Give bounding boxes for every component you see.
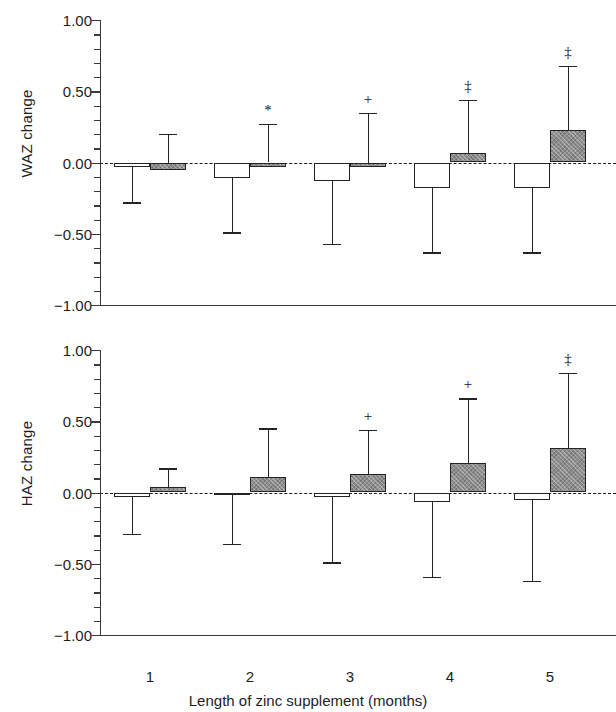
waz-y-major-tick — [91, 163, 100, 164]
waz-errorbar-cap-zinc-month-4 — [459, 100, 477, 101]
haz-y-minor-tick — [94, 621, 100, 622]
waz-y-minor-tick — [94, 262, 100, 263]
waz-significance-marker-month-3: + — [364, 92, 372, 107]
waz-significance-marker-month-5: ‡ — [564, 45, 572, 60]
haz-y-minor-tick — [94, 393, 100, 394]
waz-errorbar-control-month-1 — [132, 167, 133, 203]
haz-bar-control-month-4 — [414, 493, 450, 503]
waz-bar-zinc-month-3 — [350, 163, 386, 167]
x-axis-tick-labels: 12345 — [100, 668, 600, 690]
waz-y-minor-tick — [94, 77, 100, 78]
waz-y-tick-label: 1.00 — [63, 13, 92, 28]
haz-errorbar-control-month-4 — [432, 502, 433, 576]
haz-errorbar-cap-zinc-month-1 — [159, 468, 177, 469]
waz-errorbar-cap-control-month-5 — [523, 252, 541, 253]
haz-significance-marker-month-5: ‡ — [564, 352, 572, 367]
haz-errorbar-zinc-month-1 — [168, 468, 169, 487]
waz-y-tick-labels: 1.000.500.00−0.50−1.00 — [0, 0, 100, 300]
x-tick-label-1: 1 — [146, 668, 154, 685]
waz-y-minor-tick — [94, 148, 100, 149]
haz-bar-zinc-month-5 — [550, 448, 586, 492]
haz-significance-marker-month-3: + — [364, 409, 372, 424]
haz-y-minor-tick — [94, 464, 100, 465]
waz-bar-zinc-month-5 — [550, 130, 586, 163]
waz-x-axis-line — [100, 305, 616, 306]
figure-zinc-supplement-growth: WAZ change 1.000.500.00−0.50−1.00 *+‡‡ H… — [0, 0, 616, 712]
haz-bar-zinc-month-2 — [250, 477, 286, 493]
waz-y-major-tick — [91, 20, 100, 21]
haz-y-minor-tick — [94, 407, 100, 408]
haz-errorbar-cap-control-month-5 — [523, 581, 541, 582]
waz-bar-control-month-5 — [514, 163, 550, 189]
waz-y-major-tick — [91, 305, 100, 306]
waz-bar-control-month-2 — [214, 163, 250, 179]
haz-errorbar-zinc-month-5 — [568, 373, 569, 449]
waz-y-minor-tick — [94, 248, 100, 249]
haz-errorbar-control-month-5 — [532, 500, 533, 581]
waz-significance-marker-month-4: ‡ — [464, 79, 472, 94]
haz-bar-zinc-month-3 — [350, 474, 386, 493]
waz-y-minor-tick — [94, 120, 100, 121]
haz-y-minor-tick — [94, 607, 100, 608]
waz-errorbar-zinc-month-5 — [568, 66, 569, 130]
haz-y-major-tick — [91, 421, 100, 422]
haz-y-minor-tick — [94, 478, 100, 479]
waz-errorbar-zinc-month-4 — [468, 100, 469, 153]
waz-bar-zinc-month-2 — [250, 163, 286, 167]
waz-y-minor-tick — [94, 63, 100, 64]
haz-y-major-tick — [91, 564, 100, 565]
waz-y-tick-label: −0.50 — [54, 226, 92, 241]
panel-waz-change: WAZ change 1.000.500.00−0.50−1.00 *+‡‡ — [0, 0, 616, 330]
waz-errorbar-cap-zinc-month-1 — [159, 134, 177, 135]
waz-errorbar-cap-zinc-month-3 — [359, 113, 377, 114]
haz-errorbar-zinc-month-3 — [368, 430, 369, 474]
waz-y-minor-tick — [94, 205, 100, 206]
haz-errorbar-cap-zinc-month-4 — [459, 398, 477, 399]
waz-errorbar-cap-zinc-month-5 — [559, 66, 577, 67]
haz-y-tick-label: 1.00 — [63, 343, 92, 358]
haz-y-minor-tick — [94, 535, 100, 536]
haz-significance-marker-month-4: + — [464, 377, 472, 392]
waz-bar-zinc-month-4 — [450, 153, 486, 163]
haz-y-major-tick — [91, 493, 100, 494]
haz-y-minor-tick — [94, 436, 100, 437]
waz-errorbar-control-month-4 — [432, 188, 433, 252]
waz-errorbar-cap-control-month-2 — [223, 232, 241, 233]
waz-errorbar-cap-zinc-month-2 — [259, 124, 277, 125]
haz-y-tick-labels: 1.000.500.00−0.50−1.00 — [0, 330, 100, 630]
waz-errorbar-control-month-2 — [232, 178, 233, 232]
panel-haz-change: HAZ change 1.000.500.00−0.50−1.00 ++‡ — [0, 330, 616, 660]
waz-errorbar-cap-control-month-4 — [423, 252, 441, 253]
waz-y-major-tick — [91, 234, 100, 235]
haz-y-major-tick — [91, 635, 100, 636]
haz-errorbar-control-month-1 — [132, 497, 133, 534]
waz-y-minor-tick — [94, 191, 100, 192]
haz-errorbar-cap-control-month-2 — [223, 544, 241, 545]
waz-y-tick-label: 0.00 — [63, 155, 92, 170]
x-tick-label-4: 4 — [446, 668, 454, 685]
haz-errorbar-cap-zinc-month-5 — [559, 373, 577, 374]
waz-y-minor-tick — [94, 134, 100, 135]
haz-y-minor-tick — [94, 450, 100, 451]
haz-y-minor-tick — [94, 550, 100, 551]
waz-errorbar-zinc-month-2 — [268, 124, 269, 162]
haz-y-tick-label: 0.00 — [63, 485, 92, 500]
haz-errorbar-zinc-month-4 — [468, 398, 469, 462]
haz-errorbar-zinc-month-2 — [268, 428, 269, 476]
haz-bar-zinc-month-4 — [450, 463, 486, 493]
haz-errorbar-cap-control-month-3 — [323, 562, 341, 563]
haz-errorbar-control-month-3 — [332, 497, 333, 563]
waz-bar-control-month-4 — [414, 163, 450, 189]
waz-y-tick-label: −1.00 — [54, 298, 92, 313]
haz-y-minor-tick — [94, 521, 100, 522]
haz-y-minor-tick — [94, 578, 100, 579]
haz-y-tick-label: −1.00 — [54, 628, 92, 643]
haz-y-minor-tick — [94, 379, 100, 380]
haz-y-tick-label: −0.50 — [54, 556, 92, 571]
waz-y-minor-tick — [94, 277, 100, 278]
waz-errorbar-control-month-3 — [332, 181, 333, 244]
waz-y-minor-tick — [94, 106, 100, 107]
waz-significance-marker-month-2: * — [264, 103, 272, 118]
waz-y-minor-tick — [94, 220, 100, 221]
waz-bar-control-month-3 — [314, 163, 350, 182]
